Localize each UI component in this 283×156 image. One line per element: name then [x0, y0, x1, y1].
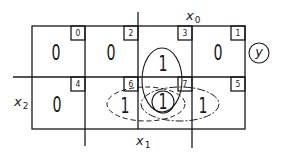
cell-value: 0	[51, 43, 60, 64]
cell-index: 4	[72, 77, 84, 91]
cell-value: 1	[120, 96, 129, 117]
cell-index: 2	[125, 26, 137, 40]
cell-value: 0	[52, 95, 61, 116]
cell-index: 7	[179, 77, 191, 91]
output-label-y: y	[249, 42, 269, 62]
label-x2: x2	[14, 95, 28, 111]
cell-index: 3	[179, 26, 191, 40]
cell-value: 0	[213, 43, 222, 64]
cell-value: 1	[158, 54, 167, 75]
label-x1: x1	[136, 134, 150, 150]
cell-index: 1	[232, 26, 244, 40]
cell-index: 0	[72, 26, 84, 40]
cell-value: 1	[158, 92, 167, 113]
label-x0: x0	[186, 9, 200, 25]
cell-value: 0	[106, 43, 115, 64]
cell-index: 5	[232, 77, 244, 91]
cell-index: 6	[125, 77, 137, 91]
cell-value: 1	[198, 96, 207, 117]
